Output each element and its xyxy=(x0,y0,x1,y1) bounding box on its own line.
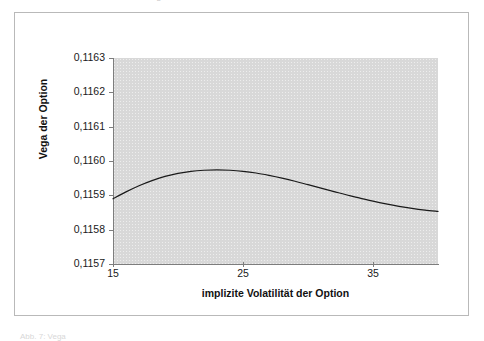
x-tick-label: 25 xyxy=(223,267,263,279)
vega-volatility-chart: 0,11570,11580,11590,11600,11610,11620,11… xyxy=(15,13,470,317)
y-tick-label: 0,1159 xyxy=(55,188,105,200)
clipped-caption-label: Abb. 7: Vega xyxy=(20,332,66,341)
clipped-text-above-label: Abbildung xyxy=(118,0,162,1)
y-tick-label-wrap: 0,1162 xyxy=(53,85,105,99)
y-tick-label-wrap: 0,1158 xyxy=(53,223,105,237)
y-tick-label-wrap: 0,1161 xyxy=(53,120,105,134)
y-tick-label: 0,1162 xyxy=(55,85,105,97)
x-tick-label: 35 xyxy=(353,267,393,279)
vega-curve-path xyxy=(113,170,438,212)
y-tick-label: 0,1158 xyxy=(55,223,105,235)
y-tick-label: 0,1161 xyxy=(55,120,105,132)
clipped-caption-below: Abb. 7: Vega xyxy=(0,331,484,341)
y-tick-label-wrap: 0,1163 xyxy=(53,51,105,65)
x-axis-title: implizite Volatilität der Option xyxy=(113,287,438,299)
y-tick-label-wrap: 0,1160 xyxy=(53,154,105,168)
y-axis-title: Vega der Option xyxy=(37,49,49,189)
x-axis-line xyxy=(113,264,439,265)
data-curve xyxy=(113,58,438,264)
figure-frame: 0,11570,11580,11590,11600,11610,11620,11… xyxy=(14,12,469,316)
y-tick-label-wrap: 0,1159 xyxy=(53,188,105,202)
clipped-text-above: Abbildung xyxy=(0,0,484,6)
x-tick-label: 15 xyxy=(93,267,133,279)
y-tick-label: 0,1160 xyxy=(55,154,105,166)
y-tick-label: 0,1163 xyxy=(55,51,105,63)
